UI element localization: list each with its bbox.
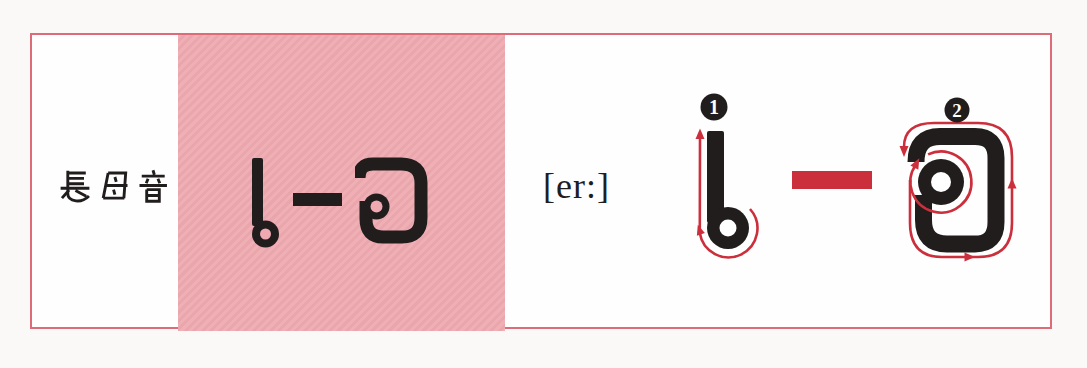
svg-text:1: 1	[709, 96, 719, 118]
vowel-card: 長母音 เ-อ [er:]	[30, 33, 1052, 329]
stroke-badge-1: 1	[701, 94, 728, 121]
vowel-panel-pink	[178, 35, 505, 331]
kanji-bo-glyph	[96, 168, 132, 204]
kanji-on-glyph	[135, 168, 171, 204]
kanji-chou-glyph	[57, 168, 93, 204]
category-label: 長母音	[57, 168, 171, 204]
thai-sara-e-glyph	[245, 150, 290, 250]
stroke-step-1-diagram: 1	[670, 85, 790, 270]
red-separator-dash	[792, 171, 872, 189]
thai-o-ang-glyph	[355, 150, 435, 250]
pronunciation-label: [er:]	[543, 165, 610, 207]
stroke-badge-2: 2	[945, 98, 970, 123]
thai-sara-e-stroke-glyph	[707, 131, 749, 249]
scanned-page-background: 長母音 เ-อ [er:]	[0, 0, 1087, 368]
svg-text:2: 2	[952, 100, 962, 121]
thai-o-ang-stroke-glyph	[916, 137, 996, 245]
stroke-step-2-diagram: 2	[890, 85, 1040, 280]
vowel-placeholder-dash	[293, 193, 342, 206]
